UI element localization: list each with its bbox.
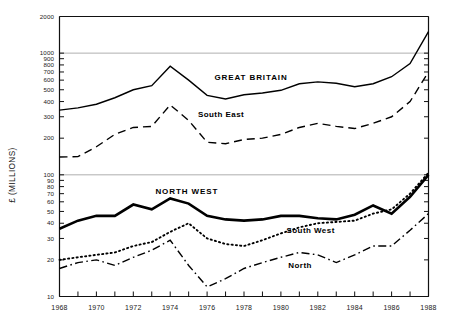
plot-background xyxy=(60,17,429,297)
chart-canvas: 2000100090080070060050040030020010090807… xyxy=(0,0,450,324)
x-tick-label-1978: 1978 xyxy=(236,304,252,311)
y-tick-label-700: 700 xyxy=(43,68,54,75)
line-chart: 2000100090080070060050040030020010090807… xyxy=(0,0,450,324)
x-tick-label-1984: 1984 xyxy=(347,304,363,311)
y-tick-label-300: 300 xyxy=(43,113,54,120)
y-tick-label-30: 30 xyxy=(47,235,55,242)
x-tick-label-1970: 1970 xyxy=(88,304,104,311)
x-tick-label-1980: 1980 xyxy=(273,304,289,311)
y-tick-label-500: 500 xyxy=(43,86,54,93)
series-label-south-west: South West xyxy=(286,226,334,235)
series-label-north-west: NORTH WEST xyxy=(155,187,218,196)
x-tick-label-1968: 1968 xyxy=(51,304,67,311)
y-tick-label-50: 50 xyxy=(47,208,55,215)
y-tick-label-10: 10 xyxy=(47,293,55,300)
series-label-great-britain: GREAT BRITAIN xyxy=(214,73,287,82)
x-tick-label-1986: 1986 xyxy=(383,304,399,311)
y-tick-label-200: 200 xyxy=(43,134,54,141)
y-tick-label-600: 600 xyxy=(43,76,54,83)
y-tick-label-2000: 2000 xyxy=(40,13,55,20)
y-tick-label-800: 800 xyxy=(43,61,54,68)
y-tick-label-20: 20 xyxy=(47,256,55,263)
x-tick-label-1976: 1976 xyxy=(199,304,215,311)
y-axis-title: £ (MILLIONS) xyxy=(8,147,17,202)
x-tick-label-1972: 1972 xyxy=(125,304,141,311)
series-label-south-east: South East xyxy=(198,110,244,119)
series-label-north: North xyxy=(288,261,312,270)
y-tick-label-80: 80 xyxy=(47,183,55,190)
x-tick-label-1974: 1974 xyxy=(162,304,178,311)
y-tick-label-40: 40 xyxy=(47,219,55,226)
x-tick-label-1982: 1982 xyxy=(310,304,326,311)
y-tick-label-70: 70 xyxy=(47,190,55,197)
y-tick-label-400: 400 xyxy=(43,98,54,105)
x-tick-label-1988: 1988 xyxy=(420,304,436,311)
y-tick-label-60: 60 xyxy=(47,198,55,205)
